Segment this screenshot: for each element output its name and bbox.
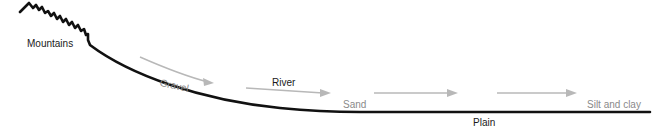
diagram-canvas [0,0,672,139]
label-mountains: Mountains [27,38,73,50]
arrowhead-icon [203,78,214,86]
label-silt-and-clay: Silt and clay [587,99,641,111]
terrain-profile [20,3,650,112]
flow-arrows [140,57,570,93]
arrowhead-icon [447,89,458,97]
label-sand: Sand [343,99,366,111]
label-plain: Plain [473,117,495,129]
label-river: River [272,77,295,89]
arrowhead-icon [566,89,577,97]
arrowhead-icon [320,89,331,97]
arrowheads [203,78,577,97]
